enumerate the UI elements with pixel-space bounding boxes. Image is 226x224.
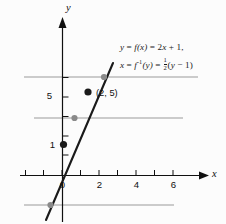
point-2-5 [84, 88, 91, 95]
eq2-fraction-one-half: 12 [164, 57, 167, 72]
point-y-intercept [60, 141, 67, 148]
point-gray-middle [71, 115, 77, 121]
fraction-numerator: 1 [164, 57, 167, 64]
x-tick-label-2: 2 [93, 179, 106, 190]
point-label-2-5: (2, 5) [96, 88, 118, 98]
equation-line-1: y = f(x) = 2x + 1, [120, 41, 224, 55]
x-tick-label-0: 0 [56, 179, 69, 190]
point-gray-upper [101, 74, 107, 80]
y-axis [59, 17, 69, 222]
point-gray-lower [47, 202, 53, 208]
y-tick-label-1: 1 [47, 139, 58, 150]
eq1-equals-1: = [124, 42, 134, 52]
x-tick-label-4: 4 [130, 179, 143, 190]
eq1-argument: (x) [137, 42, 148, 52]
graph-figure: y x 0 2 4 6 1 5 (2, 5) y = f(x) = 2x + 1… [0, 0, 226, 224]
x-tick-label-6: 6 [167, 179, 180, 190]
eq2-equals-2: = [153, 60, 163, 70]
eq1-equals-2: = 2 [147, 42, 162, 52]
x-axis [20, 170, 209, 180]
eq2-equals-1: = [124, 60, 134, 70]
x-axis-label: x [212, 168, 217, 179]
y-tick-label-5: 5 [44, 90, 55, 101]
eq2-argument: (y) [142, 60, 153, 70]
x-axis-arrow [199, 172, 209, 180]
equation-line-2: x = f-1(y) = 12(y − 1) [120, 55, 224, 73]
coordinate-plane [0, 0, 226, 224]
eq2-tail-close: − 1) [175, 60, 193, 70]
y-axis-arrow [59, 17, 67, 28]
equation-annotation: y = f(x) = 2x + 1, x = f-1(y) = 12(y − 1… [120, 41, 224, 72]
y-axis-label: y [66, 2, 71, 13]
fraction-denominator: 2 [164, 64, 167, 72]
eq1-tail: + 1, [166, 42, 183, 52]
